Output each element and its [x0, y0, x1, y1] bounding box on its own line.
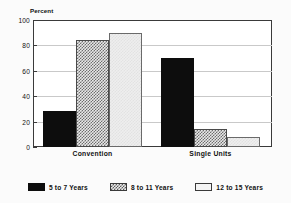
chart-legend: 5 to 7 Years8 to 11 Years12 to 15 Years [0, 179, 291, 195]
y-axis-tick-label: 60 [0, 67, 30, 74]
y-axis-label: Percent [30, 7, 53, 14]
y-axis-tick-mark [33, 122, 37, 123]
legend-item: 8 to 11 Years [110, 183, 173, 191]
legend-item: 5 to 7 Years [28, 183, 88, 191]
legend-swatch [28, 183, 45, 191]
bar-chart: Percent 020406080100 ConventionSingle Un… [0, 0, 291, 203]
legend-swatch [195, 183, 212, 191]
y-axis-tick-mark [33, 45, 37, 46]
plot-area [33, 20, 272, 147]
legend-label: 12 to 15 Years [216, 184, 263, 191]
gridline [33, 71, 272, 72]
y-axis-tick-mark [33, 20, 37, 21]
legend-label: 8 to 11 Years [131, 184, 173, 191]
bar [109, 33, 142, 147]
legend-item: 12 to 15 Years [195, 183, 263, 191]
gridline [33, 96, 272, 97]
y-axis-tick-mark [33, 71, 37, 72]
y-axis-tick-label: 80 [0, 42, 30, 49]
x-axis-category-label: Convention [73, 150, 113, 157]
bar [161, 58, 194, 147]
y-axis-tick-labels: 020406080100 [0, 20, 30, 147]
y-axis-tick-label: 0 [0, 144, 30, 151]
y-axis-tick-mark [33, 96, 37, 97]
y-axis-tick-mark [33, 147, 37, 148]
y-axis-tick-label: 20 [0, 118, 30, 125]
bar [76, 40, 109, 147]
bar [227, 137, 260, 147]
legend-swatch [110, 183, 127, 191]
bar [194, 129, 227, 147]
gridline [33, 45, 272, 46]
legend-label: 5 to 7 Years [49, 184, 88, 191]
y-axis-tick-label: 40 [0, 93, 30, 100]
bar [43, 111, 76, 147]
y-axis-tick-label: 100 [0, 17, 30, 24]
x-axis-category-label: Single Units [189, 150, 231, 157]
